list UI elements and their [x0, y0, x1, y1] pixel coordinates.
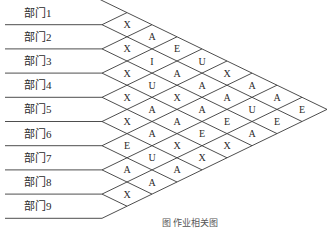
department-label: 部门3	[24, 54, 52, 67]
relationship-code: X	[123, 116, 131, 127]
relationship-code: A	[173, 68, 181, 79]
relationship-code: A	[148, 177, 156, 188]
department-label: 部门1	[24, 6, 52, 19]
department-label: 部门9	[24, 199, 52, 212]
relationship-code: U	[148, 80, 156, 91]
relationship-code: E	[299, 104, 305, 115]
relationship-code: X	[223, 68, 231, 79]
relationship-code: A	[223, 92, 231, 103]
relationship-code: E	[174, 43, 180, 54]
relationship-code: A	[148, 104, 156, 115]
department-label: 部门5	[24, 102, 52, 115]
relationship-code: A	[173, 164, 181, 175]
relationship-code: A	[273, 92, 281, 103]
relationship-code: A	[198, 104, 206, 115]
relationship-code: U	[248, 104, 256, 115]
relationship-code: X	[123, 189, 131, 200]
relationship-code: U	[198, 56, 206, 67]
relationship-code: A	[198, 80, 206, 91]
relationship-code: X	[123, 68, 131, 79]
department-label: 部门4	[24, 78, 52, 91]
relationship-code: E	[274, 116, 280, 127]
figure-caption: 图 作业相关图	[162, 217, 218, 228]
activity-relationship-chart: 部门1部门2部门3部门4部门5部门6部门7部门8部门9 XXXXXEAXAIUA…	[0, 0, 330, 229]
relationship-code: A	[173, 116, 181, 127]
relationship-code: A	[248, 128, 256, 139]
relationship-code: X	[123, 92, 131, 103]
relationship-code: E	[199, 128, 205, 139]
department-label: 部门8	[24, 175, 52, 188]
relationship-code: E	[224, 116, 230, 127]
relationship-code: E	[124, 140, 130, 151]
relationship-code: X	[223, 140, 231, 151]
relationship-code: X	[173, 92, 181, 103]
relationship-code: X	[198, 152, 206, 163]
department-labels: 部门1部门2部门3部门4部门5部门6部门7部门8部门9	[24, 6, 52, 213]
grid-lines	[5, 0, 327, 218]
relationship-code: A	[148, 31, 156, 42]
relationship-code: A	[248, 80, 256, 91]
department-label: 部门6	[24, 127, 52, 140]
department-label: 部门7	[24, 151, 52, 164]
department-label: 部门2	[24, 30, 52, 43]
relationship-code: I	[150, 56, 153, 67]
relationship-code: A	[148, 128, 156, 139]
relationship-code: X	[123, 43, 131, 54]
relationship-code: A	[123, 164, 131, 175]
relationship-code: X	[123, 19, 131, 30]
relationship-code: U	[148, 152, 156, 163]
relationship-code: X	[173, 140, 181, 151]
